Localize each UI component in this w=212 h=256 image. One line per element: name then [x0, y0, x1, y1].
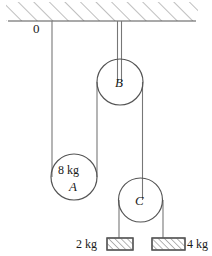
block-right — [152, 238, 185, 250]
block-right-mass-label: 4 kg — [187, 238, 208, 250]
diagram-canvas — [0, 0, 212, 256]
block-left-mass-label: 2 kg — [76, 238, 97, 250]
pulley-c-label: C — [135, 194, 144, 207]
rod-ceiling-to-pulley-b — [118, 21, 122, 82]
block-left — [107, 238, 133, 250]
pulley-b-label: B — [115, 76, 123, 89]
body-a-label: A — [69, 180, 77, 193]
origin-label: 0 — [33, 22, 40, 35]
ceiling-hatching — [6, 2, 198, 21]
pulley-system-diagram: 0 B 8 kg A C 2 kg 4 kg — [0, 0, 212, 256]
body-a-mass-label: 8 kg — [58, 164, 79, 176]
